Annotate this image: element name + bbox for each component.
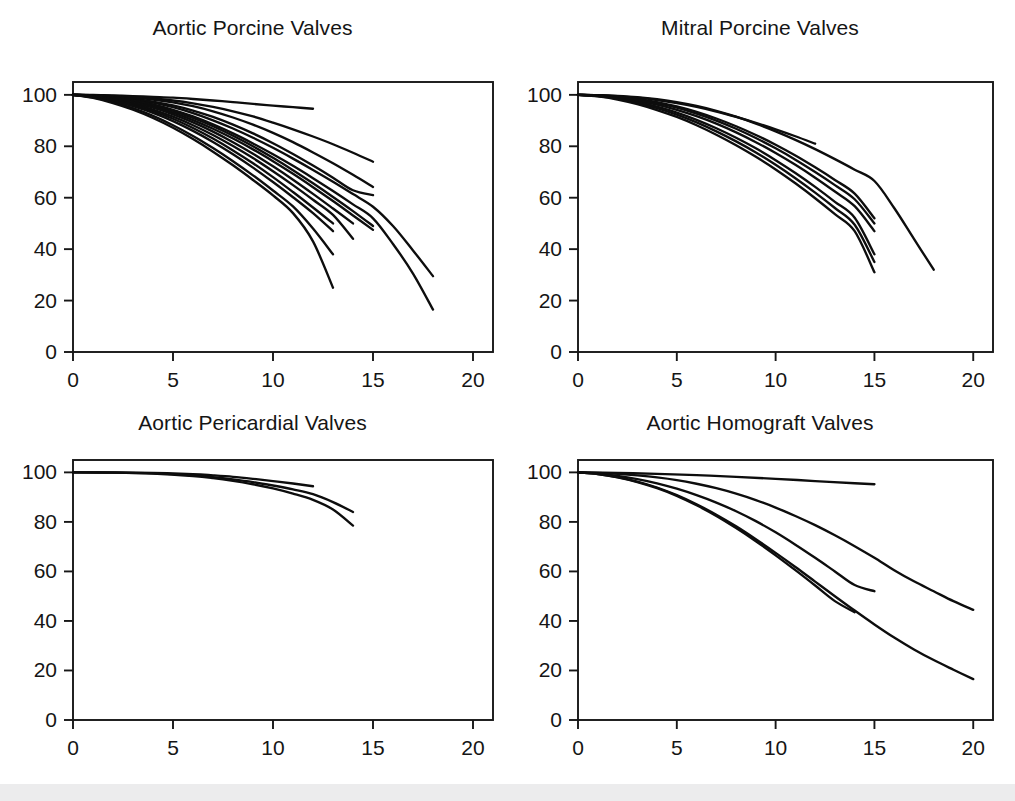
- plot-svg-aortic-porcine: 02040608010005101520: [0, 0, 505, 395]
- y-tick-label: 20: [539, 658, 562, 681]
- x-tick-label: 15: [361, 368, 384, 391]
- plot-svg-aortic-homograft: 02040608010005101520: [505, 395, 1015, 801]
- y-tick-label: 20: [34, 289, 57, 312]
- panel-mitral-porcine: Mitral Porcine Valves 020406080100051015…: [505, 0, 1015, 395]
- plot-area-mitral-porcine: 02040608010005101520: [505, 0, 1015, 395]
- y-tick-label: 60: [539, 186, 562, 209]
- y-tick-label: 60: [34, 559, 57, 582]
- y-tick-label: 0: [550, 708, 562, 731]
- survival-curve: [578, 95, 934, 270]
- x-tick-label: 20: [461, 368, 484, 391]
- x-tick-label: 20: [461, 736, 484, 759]
- survival-curve: [578, 95, 874, 254]
- survival-curve: [73, 472, 353, 525]
- survival-curve: [578, 472, 973, 679]
- x-tick-label: 5: [167, 368, 179, 391]
- panel-grid: Aortic Porcine Valves 020406080100051015…: [0, 0, 1015, 801]
- y-tick-label: 20: [539, 289, 562, 312]
- x-tick-label: 5: [167, 736, 179, 759]
- plot-area-aortic-homograft: 02040608010005101520: [505, 395, 1015, 801]
- x-tick-label: 10: [261, 368, 284, 391]
- x-tick-label: 0: [67, 736, 79, 759]
- survival-curve: [578, 95, 874, 262]
- survival-curve: [73, 95, 433, 310]
- x-tick-label: 15: [863, 736, 886, 759]
- plot-svg-aortic-pericardial: 02040608010005101520: [0, 395, 505, 801]
- y-tick-label: 0: [45, 340, 57, 363]
- y-tick-label: 80: [34, 510, 57, 533]
- x-tick-label: 20: [962, 736, 985, 759]
- x-tick-label: 15: [361, 736, 384, 759]
- y-tick-label: 80: [539, 510, 562, 533]
- survival-curve: [578, 472, 855, 612]
- x-tick-label: 15: [863, 368, 886, 391]
- y-tick-label: 60: [539, 559, 562, 582]
- y-tick-label: 80: [539, 134, 562, 157]
- x-tick-label: 0: [67, 368, 79, 391]
- y-tick-label: 40: [539, 237, 562, 260]
- x-tick-label: 5: [671, 368, 683, 391]
- plot-area-aortic-porcine: 02040608010005101520: [0, 0, 505, 395]
- x-tick-label: 10: [261, 736, 284, 759]
- panel-aortic-porcine: Aortic Porcine Valves 020406080100051015…: [0, 0, 505, 395]
- x-tick-label: 10: [764, 736, 787, 759]
- axis-frame: [73, 460, 493, 720]
- axis-frame: [73, 82, 493, 352]
- y-tick-label: 20: [34, 658, 57, 681]
- survival-curve: [578, 472, 973, 609]
- scan-artifact-band: [0, 784, 1015, 801]
- y-tick-label: 100: [527, 83, 562, 106]
- survival-curve: [73, 95, 433, 276]
- x-tick-label: 10: [764, 368, 787, 391]
- y-tick-label: 60: [34, 186, 57, 209]
- x-tick-label: 20: [962, 368, 985, 391]
- survival-curve: [73, 95, 333, 231]
- x-tick-label: 0: [572, 736, 584, 759]
- y-tick-label: 80: [34, 134, 57, 157]
- x-tick-label: 5: [671, 736, 683, 759]
- plot-area-aortic-pericardial: 02040608010005101520: [0, 395, 505, 801]
- survival-curve: [73, 95, 353, 224]
- plot-svg-mitral-porcine: 02040608010005101520: [505, 0, 1015, 395]
- y-tick-label: 40: [34, 609, 57, 632]
- y-tick-label: 100: [527, 460, 562, 483]
- figure-root: Aortic Porcine Valves 020406080100051015…: [0, 0, 1015, 801]
- axis-frame: [578, 82, 993, 352]
- y-tick-label: 100: [22, 460, 57, 483]
- y-tick-label: 0: [45, 708, 57, 731]
- panel-aortic-pericardial: Aortic Pericardial Valves 02040608010005…: [0, 395, 505, 801]
- y-tick-label: 100: [22, 83, 57, 106]
- y-tick-label: 0: [550, 340, 562, 363]
- y-tick-label: 40: [34, 237, 57, 260]
- y-tick-label: 40: [539, 609, 562, 632]
- panel-aortic-homograft: Aortic Homograft Valves 0204060801000510…: [505, 395, 1015, 801]
- x-tick-label: 0: [572, 368, 584, 391]
